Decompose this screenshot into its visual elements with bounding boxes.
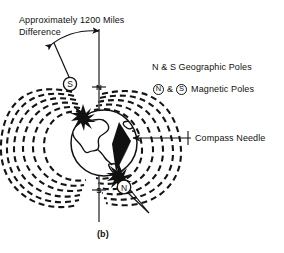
geographic-poles-legend: N & S Geographic Poles: [152, 61, 252, 73]
magnetic-poles-legend: N & S Magnetic Poles: [152, 83, 254, 95]
compass-needle-callout-label: Compass Needle: [195, 132, 265, 144]
figure-earth-magnetic-field: S N N S Approximately 1200 Miles Differe…: [0, 0, 284, 253]
geographic-south-pole-symbol: S: [96, 186, 102, 195]
legend-circled-s-icon: S: [176, 84, 187, 95]
figure-caption: (b): [97, 228, 109, 240]
angle-annotation-label: Approximately 1200 Miles Difference: [19, 14, 159, 38]
legend-circled-n-icon: N: [153, 84, 164, 95]
magnetic-south-pole-symbol: S: [67, 79, 73, 89]
magnetic-north-pole-symbol: N: [121, 183, 127, 193]
legend-ampersand: &: [167, 83, 173, 95]
legend-magnetic-poles-text: Magnetic Poles: [191, 83, 254, 95]
geographic-north-pole-symbol: N: [96, 83, 102, 92]
